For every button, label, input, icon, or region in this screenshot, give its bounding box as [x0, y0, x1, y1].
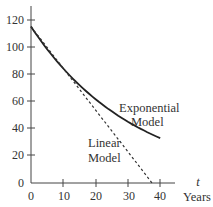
linear-label-2: Model	[88, 151, 121, 165]
x-tick-label: 30	[123, 189, 135, 203]
exponential-label-2: Model	[131, 115, 164, 129]
linear-label: Linear	[88, 136, 121, 150]
x-tick-label: 40	[154, 189, 166, 203]
chart: 120 100 80 60 40 20 0 0 10 20 30 40 Expo…	[0, 0, 213, 207]
y-tick-label: 40	[12, 121, 24, 135]
y-tick-label: 60	[12, 94, 24, 108]
x-tick-label: 20	[90, 189, 102, 203]
y-tick-label: 80	[12, 67, 24, 81]
x-axis-label-line1: Years	[183, 190, 211, 204]
exponential-label: Exponential	[119, 101, 180, 115]
x-tick-label: 0	[28, 189, 34, 203]
y-tick-label: 0	[18, 176, 24, 190]
axis-variable-t: t	[196, 175, 200, 189]
x-axis-label-line2: since	[184, 205, 210, 207]
y-tick-label: 20	[12, 148, 24, 162]
y-tick-label: 120	[6, 13, 24, 27]
x-tick-label: 10	[58, 189, 70, 203]
y-tick-label: 100	[6, 40, 24, 54]
